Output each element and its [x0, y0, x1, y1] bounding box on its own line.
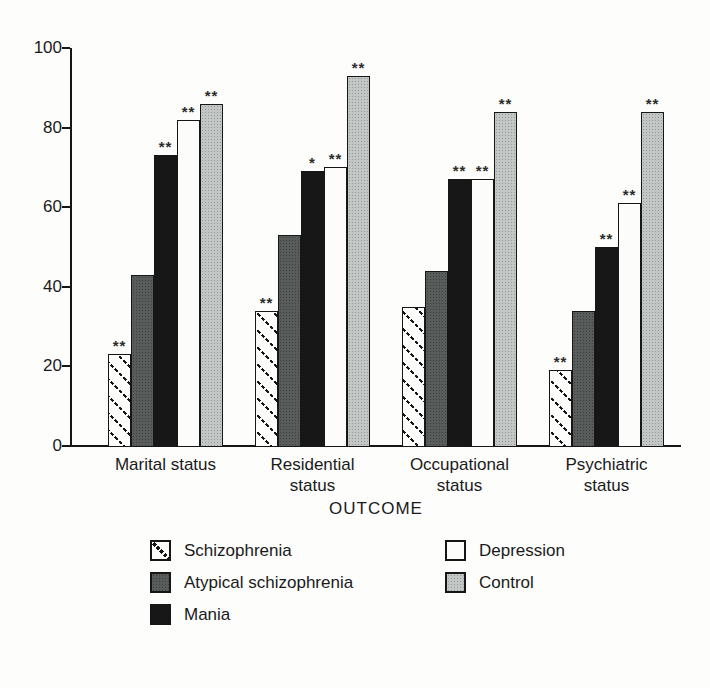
bar-atypical-schizophrenia-occupational-status — [425, 271, 448, 446]
bar-depression-residential-status — [324, 167, 347, 446]
significance-marker: * — [309, 158, 316, 168]
bar-atypical-schizophrenia-psychiatric-status — [572, 311, 595, 446]
category-label-residential-status: Residential status — [239, 454, 386, 496]
barwrap-mania: ** — [595, 48, 618, 446]
category-label-text: Residential status — [261, 454, 365, 496]
barwrap-mania: ** — [448, 48, 471, 446]
barwrap-control: ** — [641, 48, 664, 446]
y-tick-label: 60 — [18, 197, 62, 217]
significance-marker: ** — [182, 107, 196, 117]
legend-item-control: Control — [445, 572, 565, 593]
category-label-psychiatric-status: Psychiatric status — [533, 454, 680, 496]
legend-item-mania: Mania — [150, 604, 353, 625]
y-tick-mark — [62, 445, 70, 447]
significance-marker: ** — [260, 298, 274, 308]
legend-swatch-schizophrenia — [150, 540, 171, 561]
significance-marker: ** — [352, 63, 366, 73]
legend-swatch-atypical-schizophrenia — [150, 572, 171, 593]
y-tick-mark — [62, 365, 70, 367]
barwrap-mania: ** — [154, 48, 177, 446]
bar-atypical-schizophrenia-marital-status — [131, 275, 154, 446]
barwrap-depression: ** — [177, 48, 200, 446]
y-tick-mark — [62, 286, 70, 288]
bar-depression-occupational-status — [471, 179, 494, 446]
legend-column-1: SchizophreniaAtypical schizophreniaMania — [150, 540, 353, 636]
legend-label-depression: Depression — [479, 540, 565, 561]
plot-groups: ***************************** — [72, 48, 680, 446]
bar-schizophrenia-psychiatric-status — [549, 370, 572, 446]
bar-control-psychiatric-status — [641, 112, 664, 446]
legend-column-2: DepressionControl — [445, 540, 565, 604]
legend-swatch-control — [445, 572, 466, 593]
legend-swatch-depression — [445, 540, 466, 561]
legend-swatch-mania — [150, 604, 171, 625]
barwrap-atypical-schizophrenia — [425, 48, 448, 446]
category-label-text: Marital status — [114, 454, 218, 496]
legend-label-mania: Mania — [184, 604, 230, 625]
legend-label-schizophrenia: Schizophrenia — [184, 540, 292, 561]
barwrap-atypical-schizophrenia — [278, 48, 301, 446]
y-tick-label: 0 — [18, 436, 62, 456]
significance-marker: ** — [554, 357, 568, 367]
significance-marker: ** — [453, 166, 467, 176]
category-label-occupational-status: Occupational status — [386, 454, 533, 496]
bar-group-marital-status: ******** — [92, 48, 239, 446]
significance-marker: ** — [159, 142, 173, 152]
y-tick-label: 20 — [18, 356, 62, 376]
barwrap-schizophrenia — [402, 48, 425, 446]
bar-atypical-schizophrenia-residential-status — [278, 235, 301, 446]
bar-group-psychiatric-status: ******** — [533, 48, 680, 446]
y-tick-label: 80 — [18, 118, 62, 138]
bar-schizophrenia-occupational-status — [402, 307, 425, 446]
significance-marker: ** — [476, 166, 490, 176]
barwrap-atypical-schizophrenia — [131, 48, 154, 446]
bar-mania-marital-status — [154, 155, 177, 446]
significance-marker: ** — [499, 99, 513, 109]
bar-schizophrenia-residential-status — [255, 311, 278, 446]
bar-group-residential-status: ******* — [239, 48, 386, 446]
bar-control-occupational-status — [494, 112, 517, 446]
y-tick-mark — [62, 206, 70, 208]
legend-label-control: Control — [479, 572, 534, 593]
barwrap-control: ** — [494, 48, 517, 446]
bar-mania-psychiatric-status — [595, 247, 618, 446]
barwrap-control: ** — [200, 48, 223, 446]
bar-mania-residential-status — [301, 171, 324, 446]
barwrap-depression: ** — [618, 48, 641, 446]
barwrap-depression: ** — [471, 48, 494, 446]
legend-item-atypical-schizophrenia: Atypical schizophrenia — [150, 572, 353, 593]
figure: 020406080100 ***************************… — [0, 0, 710, 688]
significance-marker: ** — [600, 234, 614, 244]
significance-marker: ** — [646, 99, 660, 109]
y-tick-label: 40 — [18, 277, 62, 297]
category-label-text: Psychiatric status — [555, 454, 659, 496]
barwrap-schizophrenia: ** — [108, 48, 131, 446]
legend-label-atypical-schizophrenia: Atypical schizophrenia — [184, 572, 353, 593]
y-tick-mark — [62, 127, 70, 129]
barwrap-mania: * — [301, 48, 324, 446]
significance-marker: ** — [205, 91, 219, 101]
barwrap-depression: ** — [324, 48, 347, 446]
bar-control-marital-status — [200, 104, 223, 446]
bar-control-residential-status — [347, 76, 370, 446]
barwrap-schizophrenia: ** — [549, 48, 572, 446]
y-tick-label: 100 — [18, 38, 62, 58]
significance-marker: ** — [623, 190, 637, 200]
category-label-marital-status: Marital status — [92, 454, 239, 496]
significance-marker: ** — [329, 154, 343, 164]
legend-item-depression: Depression — [445, 540, 565, 561]
barwrap-schizophrenia: ** — [255, 48, 278, 446]
bar-mania-occupational-status — [448, 179, 471, 446]
bar-schizophrenia-marital-status — [108, 354, 131, 446]
category-label-text: Occupational status — [408, 454, 512, 496]
legend-item-schizophrenia: Schizophrenia — [150, 540, 353, 561]
category-labels: Marital statusResidential statusOccupati… — [72, 454, 680, 496]
y-tick-mark — [62, 47, 70, 49]
bar-depression-psychiatric-status — [618, 203, 641, 446]
significance-marker: ** — [113, 341, 127, 351]
barwrap-control: ** — [347, 48, 370, 446]
x-axis-title: OUTCOME — [72, 499, 680, 519]
barwrap-atypical-schizophrenia — [572, 48, 595, 446]
bar-depression-marital-status — [177, 120, 200, 446]
bar-group-occupational-status: ****** — [386, 48, 533, 446]
